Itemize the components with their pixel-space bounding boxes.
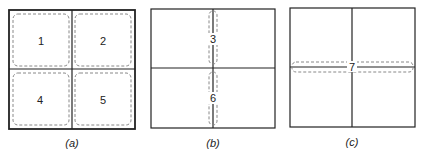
region-1-label: 1 (38, 35, 44, 47)
panel-c-caption: (c) (346, 136, 359, 148)
region-6-label: 6 (210, 92, 216, 104)
panel-a-caption: (a) (65, 137, 79, 149)
region-2-label: 2 (100, 35, 106, 47)
diagram-canvas: 1 2 4 5 (a) 3 6 (b) 7 (c) (0, 0, 425, 154)
panel-b: 3 6 (b) (151, 9, 275, 149)
region-5-label: 5 (100, 94, 106, 106)
panel-a: 1 2 4 5 (a) (9, 10, 135, 149)
panel-b-caption: (b) (206, 137, 220, 149)
region-3-label: 3 (210, 33, 216, 45)
panel-c: 7 (c) (290, 8, 415, 148)
region-7-label: 7 (349, 61, 355, 73)
region-4-label: 4 (37, 94, 43, 106)
